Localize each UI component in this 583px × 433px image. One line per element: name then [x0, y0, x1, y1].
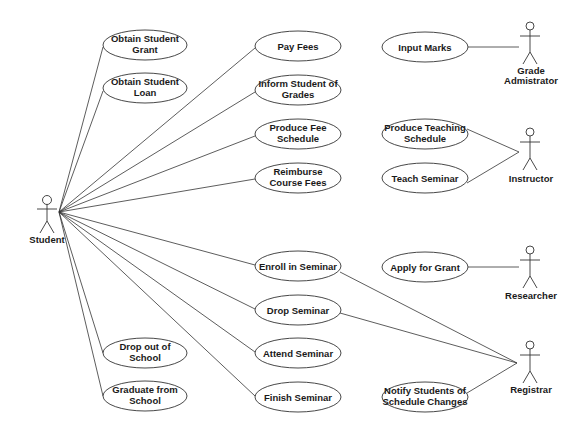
- use-case-finish[interactable]: Finish Seminar: [255, 382, 341, 412]
- use-case-label: Course Fees: [269, 177, 326, 188]
- assoc-instructor-produce-teaching: [467, 129, 519, 152]
- use-case-reimburse[interactable]: Reimburse Course Fees: [255, 163, 341, 193]
- use-case-label: Grant: [132, 44, 158, 55]
- actor-registrar[interactable]: Registrar: [510, 341, 552, 395]
- assoc-student-inform-grades: [59, 92, 255, 212]
- stick-figure-icon: [520, 22, 540, 64]
- actor-label: Instructor: [509, 173, 554, 184]
- use-case-label: Schedule Changes: [383, 396, 468, 407]
- use-case-label: Drop out of: [119, 341, 171, 352]
- use-case-label: Produce Teaching: [384, 122, 466, 133]
- assoc-registrar-enroll: [340, 272, 517, 363]
- assoc-student-enroll: [59, 212, 255, 265]
- actor-label: Registrar: [510, 384, 552, 395]
- use-case-drop-out[interactable]: Drop out of School: [103, 338, 187, 368]
- stick-figure-icon: [520, 128, 540, 170]
- actor-student[interactable]: Student: [29, 196, 65, 246]
- assoc-student-drop-seminar: [59, 212, 255, 309]
- actor-label: Researcher: [505, 290, 557, 301]
- assoc-registrar-drop-seminar: [340, 313, 517, 363]
- use-case-apply-grant[interactable]: Apply for Grant: [382, 252, 468, 282]
- use-case-label: Finish Seminar: [264, 392, 332, 403]
- use-case-obtain-grant[interactable]: Obtain Student Grant: [103, 30, 187, 60]
- use-case-diagram: Obtain Student Grant Obtain Student Loan…: [0, 0, 583, 433]
- stick-figure-icon: [520, 246, 540, 288]
- other-associations: [340, 47, 519, 393]
- use-case-label: Obtain Student: [111, 76, 180, 87]
- use-case-label: Produce Fee: [269, 122, 326, 133]
- actor-grade-administrator[interactable]: Grade Admistrator: [504, 22, 558, 86]
- use-case-label: Drop Seminar: [267, 305, 330, 316]
- actor-label: Admistrator: [504, 75, 558, 86]
- use-case-label: Attend Seminar: [263, 348, 334, 359]
- use-case-label: Obtain Student: [111, 33, 180, 44]
- use-case-produce-fee-schedule[interactable]: Produce Fee Schedule: [255, 119, 341, 149]
- use-case-attend[interactable]: Attend Seminar: [255, 338, 341, 368]
- use-case-label: Graduate from: [112, 384, 177, 395]
- assoc-student-finish: [59, 212, 255, 396]
- use-case-label: Grades: [282, 89, 315, 100]
- use-case-label: Schedule: [404, 133, 446, 144]
- use-case-label: Schedule: [277, 133, 319, 144]
- use-case-label: School: [129, 352, 161, 363]
- use-case-input-marks[interactable]: Input Marks: [382, 32, 468, 62]
- stick-figure-icon: [520, 341, 540, 383]
- assoc-student-produce-fee: [59, 136, 255, 212]
- use-case-label: Notify Students of: [384, 385, 467, 396]
- use-case-graduate[interactable]: Graduate from School: [103, 381, 187, 411]
- use-case-label: Pay Fees: [277, 41, 318, 52]
- use-case-label: Input Marks: [398, 42, 451, 53]
- use-case-label: School: [129, 395, 161, 406]
- use-case-label: Apply for Grant: [390, 262, 461, 273]
- use-case-inform-grades[interactable]: Inform Student of Grades: [255, 75, 341, 105]
- use-case-label: Enroll in Seminar: [259, 261, 337, 272]
- use-case-label: Reimburse: [273, 166, 322, 177]
- stick-figure-icon: [37, 196, 57, 234]
- assoc-student-graduate: [59, 212, 103, 396]
- use-case-pay-fees[interactable]: Pay Fees: [255, 31, 341, 61]
- assoc-student-attend: [59, 212, 255, 352]
- actor-researcher[interactable]: Researcher: [505, 246, 557, 301]
- assoc-student-reimburse: [59, 179, 255, 212]
- actor-label: Student: [29, 234, 65, 245]
- actor-instructor[interactable]: Instructor: [509, 128, 554, 184]
- use-case-teach[interactable]: Teach Seminar: [382, 163, 468, 193]
- use-case-enroll[interactable]: Enroll in Seminar: [255, 251, 341, 281]
- use-case-produce-teaching[interactable]: Produce Teaching Schedule: [382, 119, 468, 149]
- use-case-label: Teach Seminar: [392, 173, 459, 184]
- use-case-drop-seminar[interactable]: Drop Seminar: [255, 295, 341, 325]
- use-case-obtain-loan[interactable]: Obtain Student Loan: [103, 73, 187, 103]
- use-case-label: Inform Student of: [258, 78, 338, 89]
- use-case-label: Loan: [134, 87, 157, 98]
- use-case-notify[interactable]: Notify Students of Schedule Changes: [382, 382, 468, 412]
- assoc-student-obtain-grant: [59, 47, 103, 212]
